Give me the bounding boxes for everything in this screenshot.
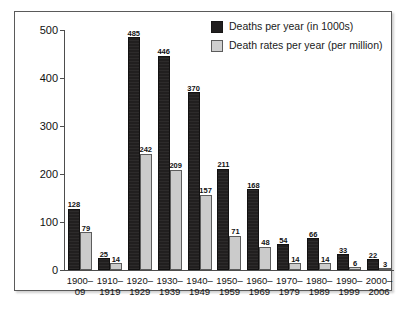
bar-death-rates[interactable]: 209	[170, 170, 182, 270]
bar-group: 336	[334, 30, 364, 270]
y-axis-tick-label: 300	[40, 121, 58, 132]
x-axis-label: 1970–1979	[274, 275, 304, 297]
y-axis-tick-label: 100	[40, 217, 58, 228]
bar-value-label: 211	[217, 161, 229, 169]
x-axis-label: 1930–1939	[155, 275, 185, 297]
bar-value-label: 128	[68, 201, 81, 209]
bar-death-rates[interactable]: 3	[379, 268, 391, 270]
y-axis-tick-label: 0	[52, 265, 58, 276]
bar-value-label: 485	[128, 30, 141, 38]
x-axis-label: 1960–1969	[244, 275, 274, 297]
bar-value-label: 14	[291, 256, 299, 264]
bar-value-label: 168	[247, 182, 260, 190]
x-axis-label: 1900–09	[65, 275, 95, 297]
bar-group: 370157	[185, 30, 215, 270]
bar-death-rates[interactable]: 157	[200, 195, 212, 270]
bar-deaths[interactable]: 168	[247, 189, 259, 270]
bar-deaths[interactable]: 211	[217, 169, 229, 270]
bar-deaths[interactable]: 33	[337, 254, 349, 270]
y-axis-tick-label: 400	[40, 73, 58, 84]
bar-groups: 1287925144852424462093701572117116848541…	[65, 30, 394, 270]
x-axis-label: 2000–2006	[364, 275, 394, 297]
bar-value-label: 14	[321, 256, 329, 264]
bar-group: 6614	[304, 30, 334, 270]
bar-value-label: 33	[339, 247, 347, 255]
bar-value-label: 370	[187, 85, 200, 93]
bar-death-rates[interactable]: 242	[140, 154, 152, 270]
bar-value-label: 66	[309, 231, 317, 239]
bar-death-rates[interactable]: 14	[110, 263, 122, 270]
bar-deaths[interactable]: 66	[307, 238, 319, 270]
x-axis-label: 1980–1989	[304, 275, 334, 297]
y-axis-tick-mark	[60, 78, 64, 79]
y-axis-tick-mark	[60, 174, 64, 175]
bar-death-rates[interactable]: 71	[229, 236, 241, 270]
bar-death-rates[interactable]: 48	[259, 247, 271, 270]
bar-group: 446209	[155, 30, 185, 270]
bar-death-rates[interactable]: 79	[80, 232, 92, 270]
x-axis-label: 1920–1929	[125, 275, 155, 297]
bar-value-label: 14	[112, 256, 120, 264]
y-axis-tick-mark	[60, 126, 64, 127]
bar-group: 21171	[215, 30, 245, 270]
bar-group: 16848	[244, 30, 274, 270]
x-axis-label: 1940–1949	[185, 275, 215, 297]
bar-value-label: 79	[82, 225, 90, 233]
bar-group: 485242	[125, 30, 155, 270]
x-axis-labels: 1900–091910–19191920–19291930–19391940–1…	[65, 275, 394, 297]
bar-value-label: 54	[279, 237, 287, 245]
bar-deaths[interactable]: 22	[367, 259, 379, 270]
bar-deaths[interactable]: 128	[68, 209, 80, 270]
y-axis-tick-mark	[60, 222, 64, 223]
bar-value-label: 209	[169, 162, 182, 170]
bar-deaths[interactable]: 485	[128, 37, 140, 270]
y-axis-tick-mark	[60, 270, 64, 271]
chart-frame: Deaths per year (in 1000s) Death rates p…	[14, 11, 392, 291]
bar-death-rates[interactable]: 14	[289, 263, 301, 270]
plot-area: 0100200300400500 12879251448524244620937…	[64, 30, 394, 270]
bar-value-label: 25	[100, 251, 108, 259]
bar-group: 12879	[65, 30, 95, 270]
x-axis-label: 1950–1959	[215, 275, 245, 297]
chart-figure: Deaths per year (in 1000s) Death rates p…	[0, 0, 413, 310]
bar-value-label: 6	[353, 260, 357, 268]
bar-value-label: 48	[261, 239, 269, 247]
bar-value-label: 242	[140, 146, 153, 154]
y-axis-tick-label: 500	[40, 25, 58, 36]
bar-group: 223	[364, 30, 394, 270]
bar-value-label: 446	[157, 48, 170, 56]
bar-value-label: 71	[231, 228, 239, 236]
bar-group: 2514	[95, 30, 125, 270]
bar-group: 5414	[274, 30, 304, 270]
x-axis-line	[64, 270, 394, 271]
bar-death-rates[interactable]: 6	[349, 267, 361, 270]
bar-deaths[interactable]: 446	[158, 56, 170, 270]
x-axis-label: 1910–1919	[95, 275, 125, 297]
bar-value-label: 3	[383, 261, 387, 269]
bar-death-rates[interactable]: 14	[319, 263, 331, 270]
y-axis-tick-mark	[60, 30, 64, 31]
bar-deaths[interactable]: 370	[188, 92, 200, 270]
x-axis-label: 1990–1999	[334, 275, 364, 297]
bar-value-label: 22	[369, 252, 377, 260]
y-axis-tick-label: 200	[40, 169, 58, 180]
bar-deaths[interactable]: 54	[277, 244, 289, 270]
bar-deaths[interactable]: 25	[98, 258, 110, 270]
bar-value-label: 157	[199, 187, 212, 195]
